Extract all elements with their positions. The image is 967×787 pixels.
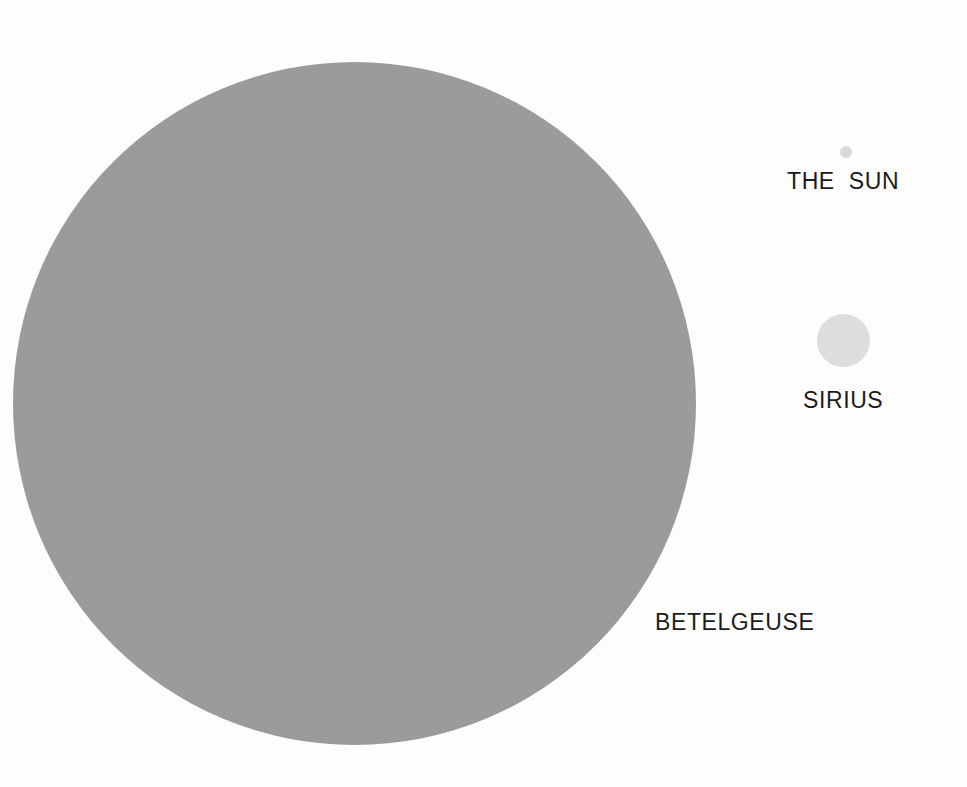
star-size-comparison-figure: THE SUN SIRIUS BETELGEUSE (0, 0, 967, 787)
betelgeuse-label: BETELGEUSE (655, 611, 814, 634)
sirius-label: SIRIUS (803, 389, 883, 412)
sirius-star-disc (817, 314, 870, 367)
betelgeuse-star-disc (13, 62, 696, 745)
sun-label: THE SUN (787, 170, 899, 193)
sun-star-disc (840, 146, 852, 158)
